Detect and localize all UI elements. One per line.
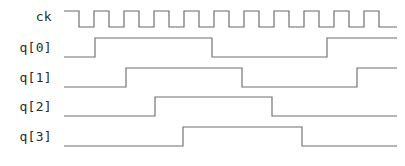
- signal-label-clock: ck: [36, 9, 52, 24]
- signal-labels: ckq[0]q[1]q[2]q[3]: [19, 9, 52, 144]
- signal-label-q2: q[2]: [19, 99, 52, 114]
- waveform-canvas: ckq[0]q[1]q[2]q[3]: [0, 0, 405, 166]
- signal-waveforms: [64, 11, 397, 146]
- waveform-ck: [64, 11, 397, 27]
- timing-diagram: ckq[0]q[1]q[2]q[3]: [0, 0, 405, 166]
- waveform-q2: [64, 97, 397, 116]
- signal-label-q3: q[3]: [19, 129, 52, 144]
- waveform-q1: [64, 68, 397, 87]
- waveform-q3: [64, 127, 397, 146]
- waveform-q0: [64, 38, 397, 57]
- signal-label-q0: q[0]: [19, 40, 52, 55]
- signal-label-q1: q[1]: [19, 70, 52, 85]
